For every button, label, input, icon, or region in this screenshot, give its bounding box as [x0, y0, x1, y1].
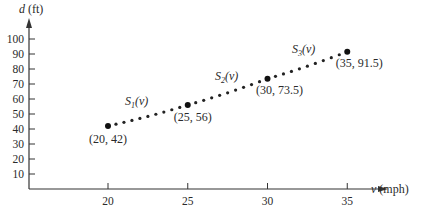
curve-dot — [130, 119, 133, 122]
y-axis-label: d (ft) — [19, 2, 43, 16]
y-tick-label: 30 — [13, 138, 25, 150]
segment-label: S1(v) — [125, 94, 148, 110]
data-point — [185, 102, 191, 108]
y-tick-label: 20 — [13, 153, 25, 165]
y-tick-label: 40 — [13, 123, 25, 135]
y-axis-ticks: 102030405060708090100 — [7, 33, 35, 180]
segment-label: S2(v) — [215, 69, 238, 85]
curve-dot — [218, 94, 221, 97]
curve-dot — [314, 62, 317, 65]
x-tick-label: 25 — [182, 195, 194, 207]
y-tick-label: 90 — [13, 48, 25, 60]
x-tick-label: 30 — [262, 195, 274, 207]
curve-dot — [234, 89, 237, 92]
y-tick-label: 50 — [13, 108, 25, 120]
curve-dot — [210, 96, 213, 99]
segment-labels: S1(v)S2(v)S3(v) — [125, 42, 315, 110]
x-axis-label: v (mph) — [371, 182, 409, 196]
curve-dot — [226, 91, 229, 94]
y-tick-label: 100 — [7, 33, 25, 45]
curve-dot — [146, 115, 149, 118]
x-tick-label: 35 — [342, 195, 354, 207]
y-axis: 102030405060708090100 d (ft) — [7, 2, 44, 189]
curve-dot — [114, 123, 117, 126]
curve-dot — [138, 117, 141, 120]
y-tick-label: 80 — [13, 63, 25, 75]
data-point-label: (30, 73.5) — [256, 83, 303, 97]
data-point-label: (35, 91.5) — [336, 56, 383, 70]
curve-dot — [290, 70, 293, 73]
y-tick-label: 70 — [13, 78, 25, 90]
data-point — [344, 49, 350, 55]
curve-dot — [162, 110, 165, 113]
data-point — [265, 76, 271, 82]
piecewise-spline-chart: 102030405060708090100 d (ft) 20253035 v … — [0, 0, 421, 218]
y-axis-arrow-icon — [26, 18, 32, 28]
segment-label: S3(v) — [292, 42, 315, 58]
x-tick-label: 20 — [102, 195, 114, 207]
y-tick-label: 60 — [13, 93, 25, 105]
curve-dot — [194, 101, 197, 104]
data-point-label: (25, 56) — [174, 110, 212, 124]
x-axis: 20253035 v (mph) — [29, 182, 409, 207]
spline-dotted-curve — [114, 53, 341, 126]
curve-dot — [178, 106, 181, 109]
curve-dot — [322, 59, 325, 62]
curve-dot — [202, 99, 205, 102]
data-point-label: (20, 42) — [89, 132, 127, 146]
x-axis-ticks: 20253035 — [102, 183, 353, 207]
y-tick-label: 10 — [13, 168, 25, 180]
curve-dot — [330, 56, 333, 59]
curve-dot — [274, 75, 277, 78]
curve-dot — [282, 72, 285, 75]
curve-dot — [250, 83, 253, 86]
curve-dot — [298, 67, 301, 70]
data-point — [105, 123, 111, 129]
curve-dot — [306, 65, 309, 68]
curve-dot — [242, 86, 245, 89]
data-points: (20, 42)(25, 56)(30, 73.5)(35, 91.5) — [89, 49, 383, 146]
curve-dot — [154, 113, 157, 116]
curve-dot — [122, 121, 125, 124]
